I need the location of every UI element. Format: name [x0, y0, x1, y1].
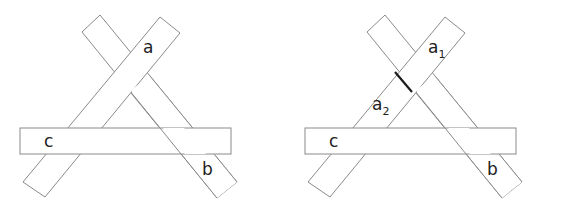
label-c: c [44, 131, 53, 151]
label-a: a [143, 37, 153, 57]
left-diagram: a c b [20, 15, 237, 198]
label-b: b [487, 159, 498, 179]
right-diagram: a1 a2 c b [305, 15, 522, 198]
diagram-canvas: a c b a1 a2 c b [0, 0, 570, 203]
label-b: b [202, 159, 213, 179]
label-c: c [329, 131, 338, 151]
